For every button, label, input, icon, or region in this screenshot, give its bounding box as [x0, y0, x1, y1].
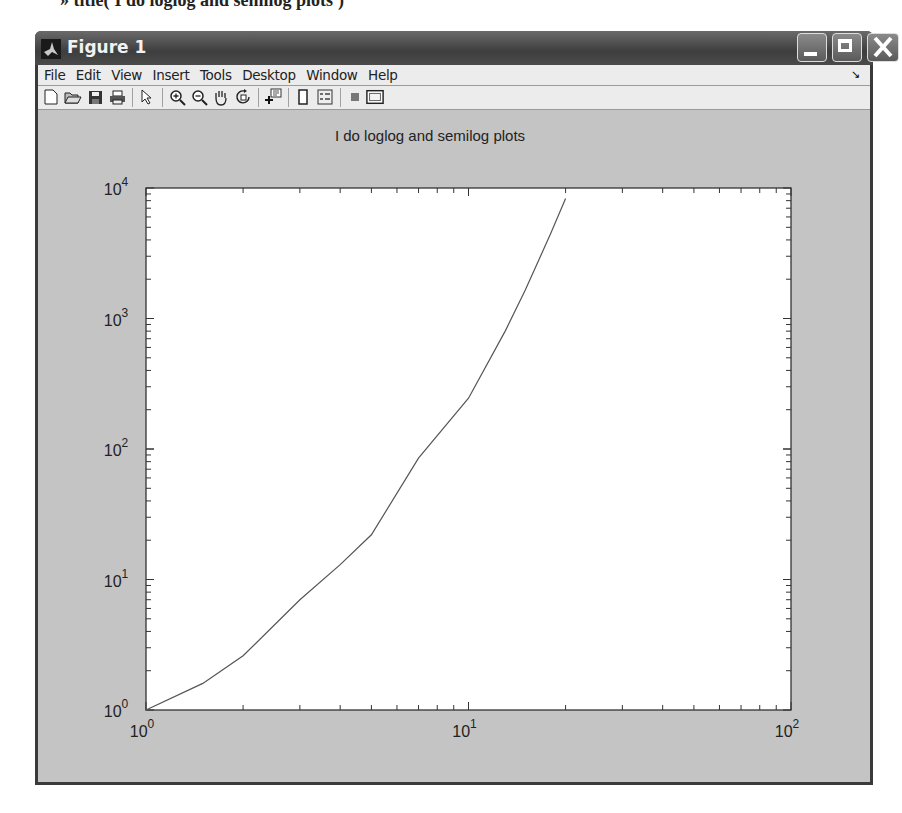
tick-label: 101 — [452, 717, 477, 740]
tick-label: 103 — [104, 306, 129, 329]
tick-label: 100 — [130, 717, 155, 740]
tick-label: 102 — [104, 436, 129, 459]
tick-label: 100 — [104, 697, 129, 720]
axes-box — [146, 188, 791, 710]
axes[interactable]: 100101102100101102103104 — [0, 0, 902, 813]
tick-label: 104 — [104, 175, 129, 198]
tick-label: 101 — [104, 567, 129, 590]
tick-label: 102 — [775, 717, 800, 740]
